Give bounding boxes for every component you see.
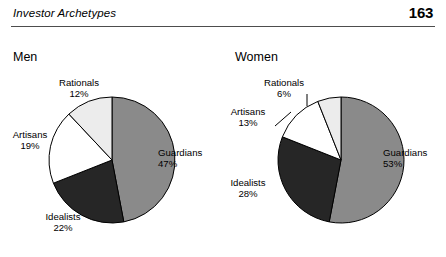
slice-percent: 6% [253,88,315,99]
slice-percent: 53% [383,158,445,169]
pie-svg-men [48,96,176,224]
slice-percent: 19% [3,140,57,151]
slice-percent: 47% [158,158,220,169]
slice-label-women-idealists: Idealists 28% [217,177,279,200]
slice-label-men-idealists: Idealists 22% [32,211,94,234]
header-divider [11,26,435,27]
slice-name: Rationals [264,77,304,88]
chart-title-men: Men [13,50,37,64]
chart-title-women: Women [235,50,278,64]
page-number: 163 [409,4,433,21]
slice-label-women-artisans: Artisans 13% [218,106,278,129]
slice-percent: 28% [217,188,279,199]
slice-label-women-guardians: Guardians 53% [383,147,445,170]
slice-name: Idealists [45,211,80,222]
chart-panel-men: Men Rationals 12% Artisans 19% Idealists… [0,34,223,257]
page-header: Investor Archetypes 163 [0,0,446,30]
slice-name: Guardians [383,147,427,158]
slice-percent: 22% [32,222,94,233]
slice-label-women-rationals: Rationals 6% [253,77,315,100]
slice-percent: 12% [48,88,110,99]
slice-label-men-rationals: Rationals 12% [48,77,110,100]
running-head-title: Investor Archetypes [13,7,116,19]
slice-name: Guardians [158,147,202,158]
chart-panel-women: Women Rationals 6% Artisans 13% Idealist… [215,34,438,257]
slice-percent: 13% [218,117,278,128]
slice-label-men-guardians: Guardians 47% [158,147,220,170]
slice-label-men-artisans: Artisans 19% [3,129,57,152]
slice-name: Artisans [231,106,266,117]
slice-name: Artisans [13,129,48,140]
pie-chart-men [48,96,176,224]
slice-name: Idealists [230,177,265,188]
slice-name: Rationals [59,77,99,88]
